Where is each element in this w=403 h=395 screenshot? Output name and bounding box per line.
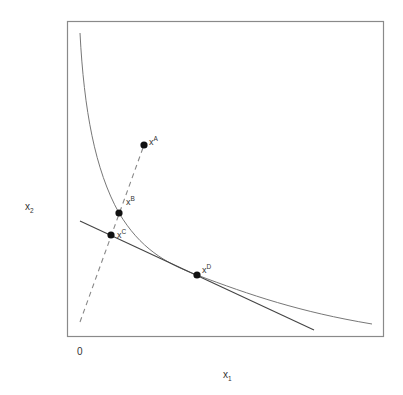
point-a-label: xA <box>149 135 159 147</box>
point-c <box>107 231 114 238</box>
point-c-label: xC <box>117 228 127 240</box>
point-b <box>115 209 122 216</box>
x-axis-label: x1 <box>223 369 232 382</box>
point-d <box>193 271 200 278</box>
isoquant-curve <box>80 33 372 324</box>
y-axis-label: x2 <box>25 201 34 214</box>
origin-label: 0 <box>77 346 83 357</box>
point-a <box>140 141 147 148</box>
figure: xA xB xC xD 0 x1 x2 <box>0 0 403 395</box>
point-d-label: xD <box>202 263 212 275</box>
point-b-label: xB <box>126 195 135 207</box>
